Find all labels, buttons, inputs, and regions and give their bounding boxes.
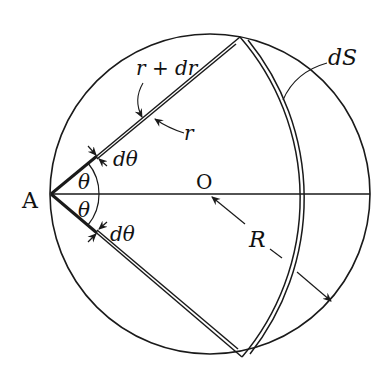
- label-dtheta-lower: dθ: [110, 222, 135, 246]
- ds-outer-arc: [248, 40, 304, 354]
- r-leader: [155, 119, 184, 133]
- radius-arrow-dash: [270, 249, 282, 258]
- ds-inner-arc: [240, 37, 300, 357]
- dtheta-arrow-upper-b: [99, 159, 107, 166]
- label-dtheta-upper: dθ: [113, 147, 138, 171]
- label-theta-lower: θ: [78, 198, 90, 222]
- label-point-a: A: [21, 188, 39, 213]
- upper-edge-thick: [51, 156, 97, 194]
- lower-edge-thick: [51, 194, 97, 233]
- lower-edge-outer: [97, 230, 238, 349]
- dtheta-arrow-lower-b: [88, 234, 96, 242]
- radius-arrow-out: [297, 272, 331, 301]
- r-plus-dr-leader: [138, 83, 143, 117]
- dtheta-arrow-upper-a: [88, 146, 96, 155]
- label-ds: dS: [328, 45, 357, 70]
- label-r-plus-dr: r + dr: [136, 56, 199, 80]
- label-theta-upper: θ: [78, 170, 90, 194]
- label-center-o: O: [196, 170, 212, 194]
- label-r: r: [184, 121, 195, 145]
- dtheta-arrow-lower-a: [99, 222, 107, 229]
- sphere-diagram: A O R θ θ dθ dθ r + dr r dS: [0, 0, 392, 389]
- label-radius-r: R: [248, 227, 266, 252]
- radius-arrow-in: [212, 197, 245, 224]
- ds-leader: [283, 63, 327, 100]
